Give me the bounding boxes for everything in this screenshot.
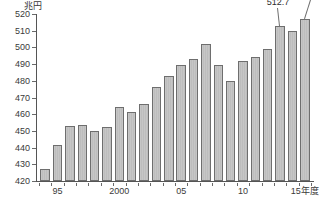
y-tick-label: 520 — [15, 10, 30, 19]
x-tick — [88, 183, 89, 186]
x-tick-label: 95 — [53, 186, 63, 196]
x-tick — [76, 183, 77, 186]
y-tick-label: 460 — [15, 110, 30, 119]
bar — [40, 169, 49, 181]
y-tick — [32, 64, 36, 65]
bar — [288, 31, 297, 181]
x-axis-line — [36, 181, 314, 182]
bar — [65, 126, 74, 181]
bar — [164, 76, 173, 181]
y-tick-label: 450 — [15, 126, 30, 135]
y-tick-label: 500 — [15, 43, 30, 52]
y-tick — [32, 148, 36, 149]
y-tick — [32, 164, 36, 165]
bar — [176, 65, 185, 181]
bar-chart: 兆円 420430440450460470480490500510520 952… — [0, 0, 321, 205]
bar — [201, 44, 210, 181]
y-tick-label: 490 — [15, 60, 30, 69]
y-tick — [32, 181, 36, 182]
y-tick — [32, 131, 36, 132]
y-tick — [32, 98, 36, 99]
y-tick-label: 510 — [15, 26, 30, 35]
x-tick-label: 05 — [176, 186, 186, 196]
y-tick-label: 440 — [15, 143, 30, 152]
y-tick — [32, 31, 36, 32]
x-tick — [274, 183, 275, 186]
bar — [300, 19, 309, 181]
leader-line — [304, 0, 311, 19]
bar — [251, 57, 260, 181]
y-tick-label: 480 — [15, 76, 30, 85]
bar — [90, 131, 99, 181]
bar — [78, 125, 87, 181]
bar — [214, 65, 223, 181]
x-tick — [163, 183, 164, 186]
x-tick — [138, 183, 139, 186]
x-tick — [150, 183, 151, 186]
bar — [275, 26, 284, 181]
bar — [152, 87, 161, 181]
plot-area: 420430440450460470480490500510520 952000… — [36, 14, 314, 182]
x-tick — [212, 183, 213, 186]
y-tick — [32, 47, 36, 48]
y-tick-label: 470 — [15, 93, 30, 102]
bar — [115, 107, 124, 181]
y-tick — [32, 81, 36, 82]
x-tick — [39, 183, 40, 186]
y-tick — [32, 14, 36, 15]
x-tick — [64, 183, 65, 186]
bar — [238, 61, 247, 181]
bar — [226, 81, 235, 181]
x-tick — [224, 183, 225, 186]
y-tick — [32, 114, 36, 115]
bar — [127, 112, 136, 181]
data-label: 512.7 — [267, 0, 290, 7]
bar — [102, 127, 111, 181]
x-tick — [286, 183, 287, 186]
y-tick-label: 420 — [15, 177, 30, 186]
x-tick-label: 15年度 — [291, 186, 319, 196]
x-tick — [249, 183, 250, 186]
x-tick — [262, 183, 263, 186]
x-tick — [187, 183, 188, 186]
x-tick-label: 10 — [238, 186, 248, 196]
leader-line — [277, 8, 280, 26]
y-tick-label: 430 — [15, 160, 30, 169]
x-tick-label: 2000 — [109, 186, 129, 196]
bar — [53, 145, 62, 181]
bar — [189, 59, 198, 181]
y-axis-line — [36, 14, 37, 182]
bar — [263, 49, 272, 181]
x-tick — [200, 183, 201, 186]
x-tick — [101, 183, 102, 186]
bar — [139, 104, 148, 181]
